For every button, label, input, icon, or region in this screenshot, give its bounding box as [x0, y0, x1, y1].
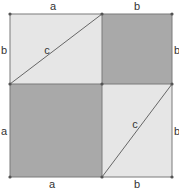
label-bottom-b: b — [134, 178, 140, 189]
top-right-square — [102, 14, 172, 84]
label-top-b: b — [134, 0, 140, 12]
bottom-left-square — [10, 84, 102, 177]
label-hyp-c-bottom: c — [132, 118, 138, 130]
label-right-b-top: b — [174, 44, 179, 56]
pythagoras-diagram: a b b b c a b c a b — [0, 0, 179, 189]
label-left-b: b — [1, 44, 7, 56]
label-left-a: a — [1, 125, 8, 137]
label-bottom-a: a — [49, 178, 56, 189]
label-hyp-c-top: c — [44, 44, 50, 56]
label-top-a: a — [50, 0, 57, 12]
label-right-b-bottom: b — [174, 125, 179, 137]
